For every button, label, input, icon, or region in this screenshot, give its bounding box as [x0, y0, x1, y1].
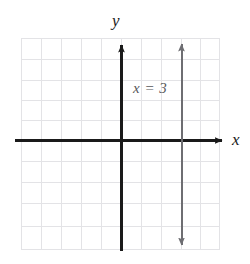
x-axis-label: x [232, 131, 240, 148]
line-equation-label: x = 3 [133, 80, 167, 97]
coordinate-plane-figure [0, 0, 250, 264]
y-axis-label: y [112, 12, 120, 29]
